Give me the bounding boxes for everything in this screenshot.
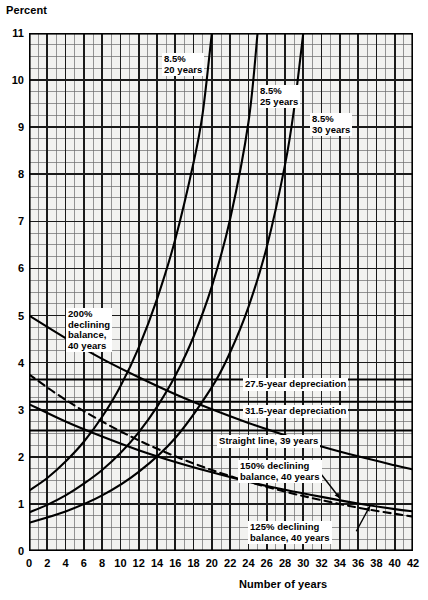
annotation-line: 20 years xyxy=(164,64,202,75)
y-tick-label: 0 xyxy=(2,545,24,557)
annotation-line: 40 years xyxy=(68,340,106,351)
annotation-line: balance, 40 years xyxy=(250,532,330,543)
annotation-line: balance, 40 years xyxy=(240,471,320,482)
y-tick-label: 3 xyxy=(2,404,24,416)
annotation-line: 8.5% xyxy=(164,53,186,64)
annotation-27p5-year-depreciation: 27.5-year depreciation xyxy=(243,378,348,391)
annotation-125-declining-balance: 125% declining balance, 40 years xyxy=(248,521,332,544)
y-tick-label: 1 xyxy=(2,498,24,510)
y-tick-label: 10 xyxy=(2,74,24,86)
y-axis-title: Percent xyxy=(6,4,47,16)
annotation-line: 8.5% xyxy=(312,113,334,124)
y-tick-label: 9 xyxy=(2,121,24,133)
annotation-8p5-20years: 8.5% 20 years xyxy=(162,53,204,76)
y-tick-label: 4 xyxy=(2,357,24,369)
annotation-line: 25 years xyxy=(260,96,298,107)
x-axis-title: Number of years xyxy=(239,578,327,590)
y-tick-label: 5 xyxy=(2,310,24,322)
annotation-line: declining xyxy=(68,319,110,330)
annotation-line: 125% declining xyxy=(250,521,319,532)
depreciation-percent-chart: Percent 11109876543210 02468101214161820… xyxy=(0,0,428,600)
annotation-line: 30 years xyxy=(312,124,350,135)
annotation-line: 8.5% xyxy=(260,85,282,96)
x-tick-label: 42 xyxy=(402,557,424,569)
annotation-line: 200% xyxy=(68,308,93,319)
annotation-200-declining-balance: 200% declining balance, 40 years xyxy=(66,308,112,352)
y-tick-label: 6 xyxy=(2,262,24,274)
annotation-31p5-year-depreciation: 31.5-year depreciation xyxy=(243,405,348,418)
y-tick-label: 8 xyxy=(2,168,24,180)
y-tick-label: 11 xyxy=(2,27,24,39)
annotation-line: 150% declining xyxy=(240,460,309,471)
annotation-150-declining-balance: 150% declining balance, 40 years xyxy=(238,460,322,483)
y-tick-label: 2 xyxy=(2,451,24,463)
annotation-8p5-25years: 8.5% 25 years xyxy=(258,85,300,108)
annotation-line: balance, xyxy=(68,329,106,340)
y-tick-label: 7 xyxy=(2,215,24,227)
annotation-straight-line-39years: Straight line, 39 years xyxy=(217,435,320,448)
plot-area xyxy=(29,33,413,551)
annotation-8p5-30years: 8.5% 30 years xyxy=(310,113,352,136)
plot-svg xyxy=(29,33,413,551)
